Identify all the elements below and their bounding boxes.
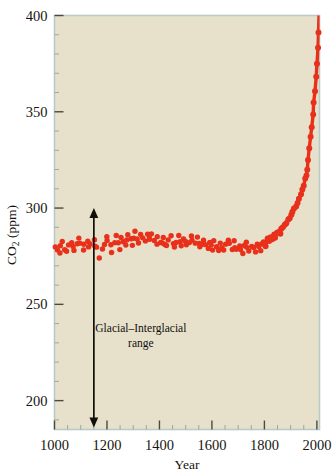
data-point	[130, 243, 135, 248]
data-point	[81, 247, 86, 252]
data-point	[211, 238, 216, 243]
y-tick-label-400: 400	[26, 8, 48, 24]
data-point	[172, 244, 177, 249]
data-point	[240, 251, 245, 256]
data-point	[155, 234, 160, 239]
data-point	[76, 235, 81, 240]
data-point	[71, 248, 76, 253]
data-point	[176, 233, 181, 238]
x-tick-label-1400: 1400	[145, 437, 174, 453]
svg-text:CO2 (ppm): CO2 (ppm)	[4, 205, 21, 265]
data-point	[123, 242, 128, 247]
data-point	[97, 255, 102, 260]
data-point	[117, 247, 122, 252]
x-tick-label-1200: 1200	[92, 437, 121, 453]
data-point	[147, 237, 152, 242]
data-point	[258, 248, 263, 253]
y-tick-label-200: 200	[26, 393, 48, 409]
y-axis-minor-ticks	[55, 35, 60, 420]
data-point	[109, 250, 114, 255]
y-axis-title-co2: CO	[4, 246, 19, 265]
data-point	[195, 234, 200, 239]
data-point	[164, 243, 169, 248]
data-point	[221, 247, 226, 252]
data-point	[116, 240, 121, 245]
x-tick-label-1800: 1800	[250, 437, 279, 453]
annotation-label-line2: range	[128, 337, 154, 350]
figure-container: 200250300350400 100012001400160018002000…	[0, 0, 334, 474]
x-tick-label-1600: 1600	[197, 437, 226, 453]
x-tick-label-2000: 2000	[302, 437, 331, 453]
annotation-label-line1: Glacial–Interglacial	[95, 322, 186, 335]
data-point	[57, 250, 62, 255]
y-axis-title-units: (ppm)	[4, 205, 19, 241]
data-point	[149, 231, 154, 236]
data-point	[114, 233, 119, 238]
y-tick-label-250: 250	[26, 296, 48, 312]
data-point	[231, 238, 236, 243]
co2-vs-year-scatter-chart: 200250300350400 100012001400160018002000…	[0, 0, 334, 474]
data-point	[64, 249, 69, 254]
data-point	[132, 228, 137, 233]
data-point	[179, 243, 184, 248]
y-tick-label-300: 300	[26, 200, 48, 216]
data-point	[253, 249, 258, 254]
y-tick-label-350: 350	[26, 104, 48, 120]
data-point	[168, 233, 173, 238]
data-point	[244, 240, 249, 245]
x-tick-label-1000: 1000	[40, 437, 69, 453]
data-point	[227, 241, 232, 246]
y-axis-title: CO2 (ppm)	[4, 205, 21, 265]
data-point	[87, 241, 92, 246]
data-point	[161, 235, 166, 240]
data-point	[246, 248, 251, 253]
data-point	[60, 239, 65, 244]
data-point	[136, 240, 141, 245]
data-point	[104, 238, 109, 243]
x-axis-title: Year	[175, 457, 200, 472]
